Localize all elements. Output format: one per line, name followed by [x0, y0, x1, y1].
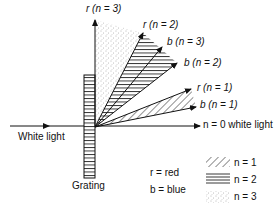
key-blue: b = blue: [150, 185, 186, 195]
legend-label-n1: n = 1: [234, 158, 257, 168]
legend-swatch-n2: [206, 174, 230, 183]
key-red: r = red: [150, 168, 179, 178]
legend-swatch-n3: [206, 191, 230, 203]
label-r3: r (n = 3): [86, 4, 121, 14]
incoming-arrow-head: [43, 123, 50, 129]
label-b1: b (n = 1): [200, 100, 238, 110]
label-grating: Grating: [72, 181, 105, 191]
label-r1: r (n = 1): [197, 83, 232, 93]
legend-label-n3: n = 3: [234, 192, 257, 202]
label-r2: r (n = 2): [143, 20, 178, 30]
label-b2: b (n = 2): [184, 58, 222, 68]
label-n0: n = 0 white light: [203, 120, 273, 130]
legend-swatch-n1: [206, 157, 230, 167]
label-white-light: White light: [18, 132, 65, 142]
legend-label-n2: n = 2: [234, 175, 257, 185]
grating: [84, 75, 95, 178]
label-b3: b (n = 3): [167, 37, 205, 47]
